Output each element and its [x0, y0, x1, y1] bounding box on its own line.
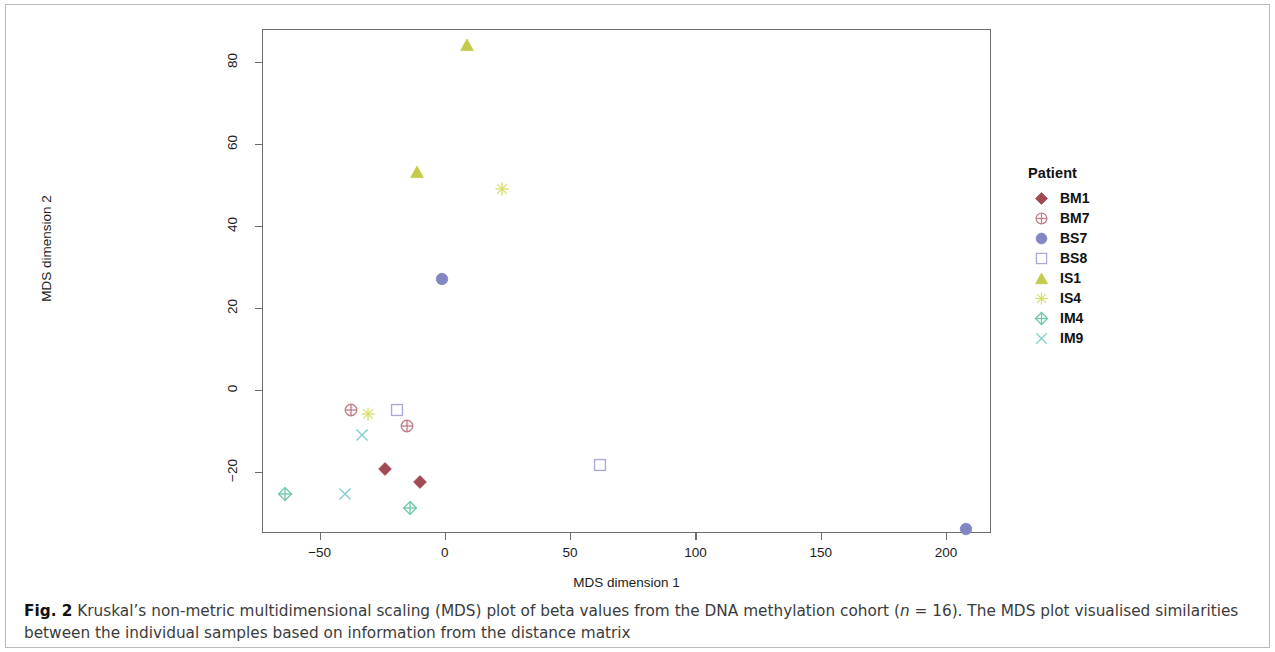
y-axis-tick	[255, 144, 262, 145]
data-point-is1	[409, 164, 425, 180]
mds-scatter-plot: −50050100150200−20020406080 MDS dimensio…	[6, 5, 1021, 595]
y-axis-tick-label: 0	[216, 381, 248, 396]
legend-item-bs8: BS8	[1028, 248, 1178, 268]
x-axis-tick-label: 100	[684, 545, 707, 560]
legend-item-label: BS8	[1060, 250, 1087, 266]
caption-part-1: Kruskal’s non-metric multidimensional sc…	[72, 602, 900, 620]
data-point-bm1	[412, 474, 428, 490]
caption-figure-number: Fig. 2	[24, 602, 72, 620]
data-point-bs8	[389, 402, 405, 418]
data-point-bm1	[377, 461, 393, 477]
data-point-im9	[354, 427, 370, 443]
legend-item-label: BS7	[1060, 230, 1087, 246]
data-point-bm7	[399, 418, 415, 434]
y-axis-tick-label: 60	[216, 135, 248, 150]
data-points-layer	[262, 29, 991, 533]
diamond-plus-icon	[1028, 311, 1054, 326]
cross-icon	[1028, 331, 1054, 346]
y-axis-tick	[255, 472, 262, 473]
x-axis-tick-label: −50	[308, 545, 331, 560]
y-axis-tick	[255, 62, 262, 63]
x-axis-label-wrap: MDS dimension 1	[6, 575, 1021, 590]
data-point-bs7	[434, 271, 450, 287]
data-point-is4	[360, 406, 376, 422]
filled-circle-icon	[1028, 231, 1054, 246]
open-square-icon	[1028, 251, 1054, 266]
legend-item-label: IM4	[1060, 310, 1083, 326]
y-axis-tick-label: 80	[216, 53, 248, 68]
figure-container: −50050100150200−20020406080 MDS dimensio…	[5, 4, 1270, 648]
x-axis-tick-label: 200	[935, 545, 958, 560]
legend-item-im9: IM9	[1028, 328, 1178, 348]
legend-item-label: BM7	[1060, 210, 1090, 226]
legend-item-bm7: BM7	[1028, 208, 1178, 228]
data-point-im9	[337, 486, 353, 502]
legend-item-label: IS4	[1060, 290, 1081, 306]
legend-item-bm1: BM1	[1028, 188, 1178, 208]
legend-title: Patient	[1028, 165, 1178, 181]
y-axis-tick-label: 40	[216, 217, 248, 232]
x-axis-tick	[320, 533, 321, 540]
x-axis-tick	[821, 533, 822, 540]
x-axis-tick	[695, 533, 696, 540]
circle-plus-icon	[1028, 211, 1054, 226]
y-axis-tick	[255, 308, 262, 309]
legend-item-im4: IM4	[1028, 308, 1178, 328]
x-axis-tick	[445, 533, 446, 540]
legend-item-label: IS1	[1060, 270, 1081, 286]
filled-triangle-icon	[1028, 271, 1054, 286]
x-axis-tick-label: 150	[809, 545, 832, 560]
data-point-im4	[277, 486, 293, 502]
y-axis-label: MDS dimension 2	[39, 139, 54, 359]
legend-item-bs7: BS7	[1028, 228, 1178, 248]
data-point-bm7	[343, 402, 359, 418]
y-axis-tick	[255, 390, 262, 391]
x-axis-tick-label: 50	[563, 545, 578, 560]
asterisk-icon	[1028, 291, 1054, 306]
data-point-im4	[402, 500, 418, 516]
caption-italic-n: n	[900, 602, 910, 620]
x-axis-tick	[946, 533, 947, 540]
legend-items: BM1BM7BS7BS8IS1IS4IM4IM9	[1028, 188, 1178, 348]
data-point-is1	[459, 37, 475, 53]
data-point-bs7	[958, 521, 974, 537]
y-axis-tick-label: 20	[216, 299, 248, 314]
legend-item-label: IM9	[1060, 330, 1083, 346]
legend: Patient BM1BM7BS7BS8IS1IS4IM4IM9	[1028, 165, 1178, 348]
filled-diamond-icon	[1028, 191, 1054, 206]
y-axis-tick-label: −20	[216, 463, 248, 478]
figure-caption: Fig. 2 Kruskal’s non-metric multidimensi…	[24, 601, 1259, 644]
x-axis-tick-label: 0	[441, 545, 449, 560]
legend-item-label: BM1	[1060, 190, 1090, 206]
data-point-is4	[494, 181, 510, 197]
x-axis-tick	[570, 533, 571, 540]
data-point-bs8	[592, 457, 608, 473]
legend-item-is1: IS1	[1028, 268, 1178, 288]
x-axis-label: MDS dimension 1	[262, 575, 991, 590]
legend-item-is4: IS4	[1028, 288, 1178, 308]
y-axis-tick	[255, 226, 262, 227]
